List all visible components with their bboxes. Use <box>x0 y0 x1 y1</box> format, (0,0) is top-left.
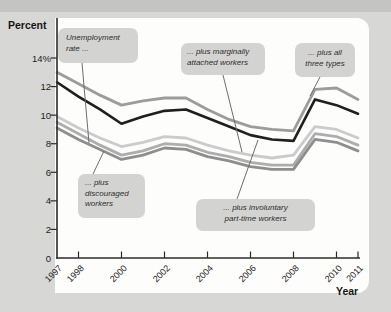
callout-plus-involuntary-part-time: ... plus involuntary part-time workers <box>196 199 315 231</box>
callout-pointer-line <box>93 151 104 174</box>
y-tick-label: 0 <box>21 253 51 264</box>
callout-pointer-line <box>223 75 242 152</box>
callout-plus-discouraged: ... plus discouraged workers <box>78 174 145 218</box>
callout-plus-marginally-attached: ... plus marginally attached workers <box>181 43 265 75</box>
series-line-0 <box>57 128 358 169</box>
y-tick-label: 6 <box>21 167 51 178</box>
y-tick-label: 4 <box>21 195 51 206</box>
y-tick-label: 12 <box>21 81 51 92</box>
y-tick-label: 10 <box>21 110 51 121</box>
y-tick-label: 14% <box>21 53 51 64</box>
callout-unemployment-rate: Unemployment rate ... <box>58 28 138 63</box>
callout-pointer-line <box>310 77 320 96</box>
y-tick-label: 8 <box>21 138 51 149</box>
figure-canvas: Percent Year Unemployment rate ... ... p… <box>0 0 391 312</box>
y-tick-label: 2 <box>21 224 51 235</box>
y-axis-title: Percent <box>8 19 47 31</box>
callout-plus-all-three-types: ... plus all three types <box>295 43 355 77</box>
callout-pointer-line <box>237 140 258 199</box>
